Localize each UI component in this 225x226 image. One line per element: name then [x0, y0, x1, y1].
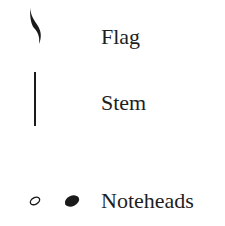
flag-icon	[26, 6, 46, 48]
flag-row: Flag	[0, 0, 225, 60]
stem-row: Stem	[0, 60, 225, 140]
filled-notehead-icon	[62, 192, 82, 210]
noteheads-label: Noteheads	[101, 190, 194, 212]
stem-label: Stem	[101, 92, 146, 114]
open-notehead-icon	[28, 194, 42, 208]
flag-label: Flag	[101, 26, 140, 48]
noteheads-row: Noteheads	[0, 180, 225, 220]
stem-icon	[33, 72, 37, 126]
